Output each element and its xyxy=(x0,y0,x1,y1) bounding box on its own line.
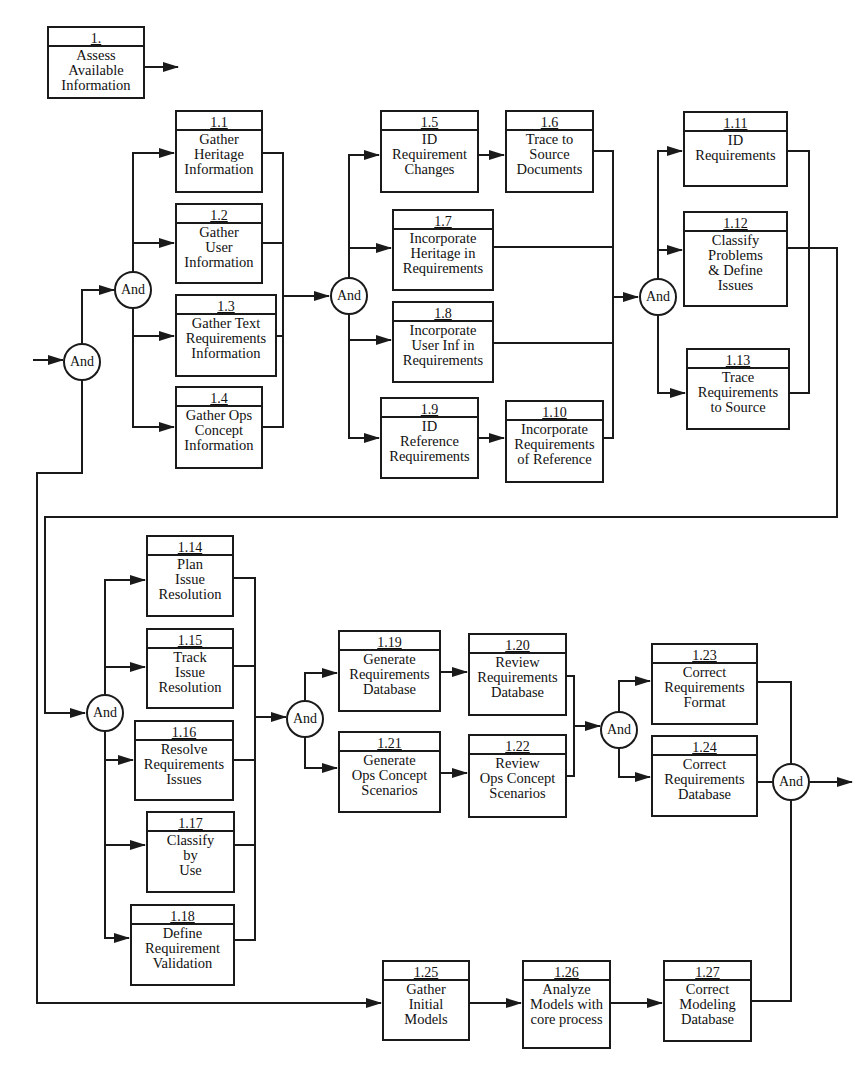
box-number: 1.11 xyxy=(685,113,786,132)
box-label: Classify by Use xyxy=(148,832,233,891)
process-box-1-23: 1.23Correct Requirements Format xyxy=(651,643,758,725)
box-number: 1.17 xyxy=(148,813,233,832)
box-number: 1.18 xyxy=(132,906,233,925)
box-label: Define Requirement Validation xyxy=(132,925,233,984)
box-label: Incorporate User Inf in Requirements xyxy=(394,322,492,381)
box-label: ID Reference Requirements xyxy=(382,418,477,477)
process-box-1: 1.Assess Available Information xyxy=(47,26,145,99)
box-label: Plan Issue Resolution xyxy=(148,556,232,615)
box-number: 1.26 xyxy=(524,962,609,981)
box-label: Review Requirements Database xyxy=(470,654,565,714)
process-box-1-20: 1.20Review Requirements Database xyxy=(468,633,567,716)
box-number: 1.5 xyxy=(382,112,477,131)
box-number: 1.21 xyxy=(340,733,439,752)
and-gate-b: And xyxy=(114,271,152,309)
box-label: Assess Available Information xyxy=(49,47,143,97)
box-number: 1.13 xyxy=(688,350,788,369)
process-box-1-16: 1.16Resolve Requirements Issues xyxy=(134,720,234,801)
box-label: ID Requirement Changes xyxy=(382,131,477,191)
and-gate-e: And xyxy=(86,694,124,732)
process-box-1-4: 1.4Gather Ops Concept Information xyxy=(175,386,263,469)
box-number: 1.1 xyxy=(177,112,261,131)
process-box-1-21: 1.21Generate Ops Concept Scenarios xyxy=(338,731,441,813)
process-box-1-22: 1.22Review Ops Concept Scenarios xyxy=(468,734,567,818)
box-label: Generate Ops Concept Scenarios xyxy=(340,752,439,811)
box-number: 1.15 xyxy=(148,630,232,649)
process-box-1-26: 1.26Analyze Models with core process xyxy=(522,960,611,1049)
box-label: Analyze Models with core process xyxy=(524,981,609,1047)
box-number: 1.20 xyxy=(470,635,565,654)
box-label: Gather Ops Concept Information xyxy=(177,407,261,467)
box-label: Classify Problems & Define Issues xyxy=(685,232,786,305)
box-number: 1.10 xyxy=(507,402,602,421)
box-label: Correct Requirements Database xyxy=(653,756,756,815)
and-gate-h: And xyxy=(772,763,810,801)
process-box-1-24: 1.24Correct Requirements Database xyxy=(651,735,758,817)
box-number: 1.6 xyxy=(507,112,592,131)
process-box-1-12: 1.12Classify Problems & Define Issues xyxy=(683,211,788,307)
box-label: Incorporate Heritage in Requirements xyxy=(394,230,492,289)
box-label: Gather User Information xyxy=(177,224,261,282)
box-label: Gather Initial Models xyxy=(384,981,468,1039)
process-box-1-9: 1.9ID Reference Requirements xyxy=(380,397,479,479)
process-box-1-25: 1.25Gather Initial Models xyxy=(382,960,470,1041)
box-label: Generate Requirements Database xyxy=(340,651,439,710)
process-box-1-3: 1.3Gather Text Requirements Information xyxy=(175,294,277,377)
box-label: Correct Requirements Format xyxy=(653,664,756,723)
box-label: Correct Modeling Database xyxy=(665,981,750,1040)
and-gate-d: And xyxy=(639,278,677,316)
box-label: Gather Heritage Information xyxy=(177,131,261,191)
box-number: 1.7 xyxy=(394,211,492,230)
box-number: 1.2 xyxy=(177,205,261,224)
box-label: Incorporate Requirements of Reference xyxy=(507,421,602,481)
process-box-1-19: 1.19Generate Requirements Database xyxy=(338,630,441,712)
process-box-1-11: 1.11ID Requirements xyxy=(683,111,788,187)
process-box-1-14: 1.14Plan Issue Resolution xyxy=(146,535,234,617)
process-box-1-27: 1.27Correct Modeling Database xyxy=(663,960,752,1042)
process-box-1-8: 1.8Incorporate User Inf in Requirements xyxy=(392,301,494,383)
process-box-1-13: 1.13Trace Requirements to Source xyxy=(686,348,790,430)
box-number: 1.19 xyxy=(340,632,439,651)
process-box-1-5: 1.5ID Requirement Changes xyxy=(380,110,479,193)
process-box-1-15: 1.15Track Issue Resolution xyxy=(146,628,234,709)
process-box-1-18: 1.18Define Requirement Validation xyxy=(130,904,235,986)
box-number: 1.22 xyxy=(470,736,565,755)
box-label: Review Ops Concept Scenarios xyxy=(470,755,565,816)
process-box-1-1: 1.1Gather Heritage Information xyxy=(175,110,263,193)
box-label: ID Requirements xyxy=(685,132,786,185)
process-box-1-17: 1.17Classify by Use xyxy=(146,811,235,893)
box-number: 1.12 xyxy=(685,213,786,232)
box-number: 1. xyxy=(49,28,143,47)
box-number: 1.25 xyxy=(384,962,468,981)
box-number: 1.16 xyxy=(136,722,232,741)
box-label: Track Issue Resolution xyxy=(148,649,232,707)
process-box-1-7: 1.7Incorporate Heritage in Requirements xyxy=(392,209,494,291)
process-box-1-10: 1.10Incorporate Requirements of Referenc… xyxy=(505,400,604,483)
process-box-1-2: 1.2Gather User Information xyxy=(175,203,263,284)
box-label: Trace to Source Documents xyxy=(507,131,592,191)
and-gate-c: And xyxy=(330,277,368,315)
box-label: Trace Requirements to Source xyxy=(688,369,788,428)
and-gate-g: And xyxy=(600,711,638,749)
box-number: 1.3 xyxy=(177,296,275,315)
and-gate-f: And xyxy=(286,700,324,738)
box-number: 1.8 xyxy=(394,303,492,322)
box-number: 1.23 xyxy=(653,645,756,664)
box-label: Gather Text Requirements Information xyxy=(177,315,275,375)
box-number: 1.27 xyxy=(665,962,750,981)
and-gate-a: And xyxy=(63,343,101,381)
box-number: 1.9 xyxy=(382,399,477,418)
box-number: 1.24 xyxy=(653,737,756,756)
process-box-1-6: 1.6Trace to Source Documents xyxy=(505,110,594,193)
box-number: 1.4 xyxy=(177,388,261,407)
box-number: 1.14 xyxy=(148,537,232,556)
box-label: Resolve Requirements Issues xyxy=(136,741,232,799)
